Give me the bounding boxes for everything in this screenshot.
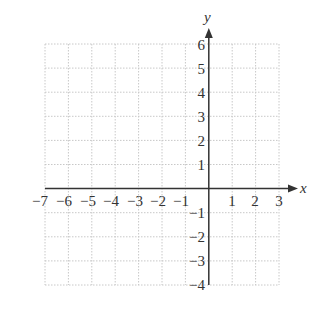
x-tick-label: −6 [56,193,72,209]
x-tick-label: −2 [150,193,166,209]
y-tick-label: 5 [198,61,206,77]
x-tick-label: −3 [127,193,143,209]
coordinate-plane: x y −7 −6 −5 −4 −3 −2 −1 1 2 3 6 5 4 3 2… [0,0,323,311]
y-tick-label: −3 [189,253,205,269]
y-tick-label: 4 [198,85,206,101]
y-tick-label: 1 [198,157,206,173]
x-axis-label: x [299,180,307,196]
x-tick-labels: −7 −6 −5 −4 −3 −2 −1 1 2 3 [32,193,283,209]
grid [45,44,279,285]
y-tick-label: 3 [198,109,206,125]
x-tick-label: −7 [32,193,48,209]
y-tick-label: 2 [198,133,206,149]
x-tick-label: −1 [173,193,189,209]
y-tick-label: −1 [189,205,205,221]
y-axis-label: y [202,9,211,25]
x-tick-label: 1 [228,193,236,209]
y-tick-labels: 6 5 4 3 2 1 −1 −2 −3 −4 [189,37,205,293]
y-axis-arrow-icon [205,28,213,38]
y-tick-label: 6 [198,37,206,53]
x-tick-label: 2 [251,193,259,209]
x-tick-label: −4 [103,193,119,209]
x-axis-arrow-icon [288,185,298,193]
x-tick-label: 3 [275,193,283,209]
x-tick-label: −5 [80,193,96,209]
y-tick-label: −2 [189,229,205,245]
y-tick-label: −4 [189,277,205,293]
